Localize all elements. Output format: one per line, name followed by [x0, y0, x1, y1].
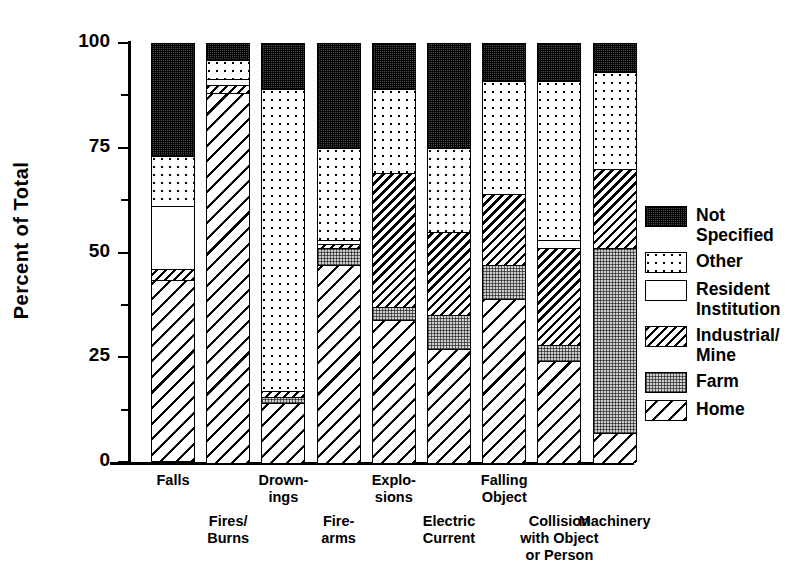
bar-segment-notspec[interactable]	[538, 44, 580, 82]
bar-segment-other[interactable]	[538, 82, 580, 241]
x-tick-label-6: Electric Current	[394, 513, 504, 547]
bar-segment-home[interactable]	[373, 321, 415, 463]
y-tick-label-25: 25	[60, 344, 110, 366]
y-tick-label-75: 75	[60, 135, 110, 157]
bar-segment-industrial[interactable]	[594, 170, 636, 250]
legend-item-notspec[interactable]: Not Specified	[645, 205, 805, 245]
bar-segment-other[interactable]	[152, 157, 194, 207]
x-tick-label-3: Drown- ings	[228, 472, 338, 506]
legend-swatch-home	[645, 400, 687, 421]
y-tick-label-50: 50	[60, 240, 110, 262]
bar-segment-notspec[interactable]	[262, 44, 304, 90]
legend-swatch-industrial	[645, 326, 687, 347]
bar-segment-notspec[interactable]	[373, 44, 415, 90]
y-tick-minor-87.5	[121, 94, 129, 96]
bar-segment-industrial[interactable]	[152, 270, 194, 280]
bar-segment-home[interactable]	[483, 300, 525, 463]
bar-segment-industrial[interactable]	[538, 249, 580, 345]
bar-segment-industrial[interactable]	[483, 195, 525, 266]
bar-segment-home[interactable]	[207, 94, 249, 463]
x-tick-label-7: Falling Object	[449, 472, 559, 506]
legend-swatch-farm	[645, 372, 687, 393]
bar-segment-notspec[interactable]	[428, 44, 470, 149]
bar-5[interactable]	[372, 43, 416, 462]
legend-label-home: Home	[696, 399, 745, 419]
plot-area	[131, 43, 633, 462]
legend-label-notspec: Not Specified	[696, 205, 774, 245]
bar-segment-farm[interactable]	[428, 316, 470, 350]
legend-item-farm[interactable]: Farm	[645, 371, 805, 393]
y-axis-title: Percent of Total	[2, 90, 42, 390]
bar-segment-farm[interactable]	[318, 249, 360, 266]
x-tick-label-9: Machinery	[560, 513, 670, 530]
y-tick-75	[118, 147, 129, 149]
bar-segment-other[interactable]	[428, 149, 470, 233]
bar-segment-other[interactable]	[207, 61, 249, 80]
legend-item-resident[interactable]: Resident Institution	[645, 279, 805, 319]
bar-segment-farm[interactable]	[538, 346, 580, 363]
legend-label-industrial: Industrial/ Mine	[696, 325, 780, 365]
y-tick-25	[118, 356, 129, 358]
bar-segment-home[interactable]	[428, 350, 470, 463]
legend-item-other[interactable]: Other	[645, 251, 805, 273]
bar-7[interactable]	[482, 43, 526, 462]
y-tick-label-0: 0	[60, 449, 110, 471]
legend-item-industrial[interactable]: Industrial/ Mine	[645, 325, 805, 365]
x-tick-label-5: Explo- sions	[339, 472, 449, 506]
y-tick-50	[118, 252, 129, 254]
x-tick-label-1: Falls	[118, 472, 228, 489]
bar-segment-home[interactable]	[152, 281, 194, 461]
bar-segment-industrial[interactable]	[373, 174, 415, 308]
stacked-bar-chart: Percent of Total 0255075100 FallsFires/ …	[0, 0, 807, 579]
bar-segment-other[interactable]	[318, 149, 360, 241]
legend-label-resident: Resident Institution	[696, 279, 781, 319]
bar-segment-other[interactable]	[373, 90, 415, 174]
bar-segment-home[interactable]	[262, 404, 304, 463]
y-tick-minor-37.5	[121, 304, 129, 306]
bar-1[interactable]	[151, 43, 195, 462]
x-tick-label-4: Fire- arms	[284, 513, 394, 547]
bar-segment-farm[interactable]	[594, 249, 636, 433]
legend-swatch-other	[645, 252, 687, 273]
y-tick-minor-62.5	[121, 199, 129, 201]
bar-segment-home[interactable]	[594, 434, 636, 463]
bar-segment-home[interactable]	[318, 266, 360, 463]
y-tick-100	[118, 42, 129, 44]
x-tick-label-2: Fires/ Burns	[173, 513, 283, 547]
bar-segment-industrial[interactable]	[428, 233, 470, 317]
bar-segment-other[interactable]	[483, 82, 525, 195]
bar-8[interactable]	[537, 43, 581, 462]
legend-swatch-resident	[645, 280, 687, 301]
bar-segment-notspec[interactable]	[207, 44, 249, 61]
bar-2[interactable]	[206, 43, 250, 462]
legend-label-other: Other	[696, 251, 743, 271]
bar-6[interactable]	[427, 43, 471, 462]
bar-segment-other[interactable]	[594, 73, 636, 169]
chart-legend: Not SpecifiedOtherResident InstitutionIn…	[645, 205, 805, 427]
bar-segment-resident[interactable]	[538, 241, 580, 249]
legend-swatch-notspec	[645, 206, 687, 227]
y-tick-minor-12.5	[121, 409, 129, 411]
bar-segment-farm[interactable]	[373, 308, 415, 321]
bar-segment-notspec[interactable]	[318, 44, 360, 149]
legend-label-farm: Farm	[696, 371, 739, 391]
bar-segment-industrial[interactable]	[207, 86, 249, 94]
bar-segment-notspec[interactable]	[152, 44, 194, 157]
legend-item-home[interactable]: Home	[645, 399, 805, 421]
bar-segment-notspec[interactable]	[483, 44, 525, 82]
bar-segment-home[interactable]	[538, 362, 580, 463]
bar-9[interactable]	[593, 43, 637, 462]
bar-3[interactable]	[261, 43, 305, 462]
bar-segment-farm[interactable]	[483, 266, 525, 300]
bar-segment-resident[interactable]	[152, 207, 194, 270]
bar-segment-other[interactable]	[262, 90, 304, 392]
y-tick-label-100: 100	[60, 30, 110, 52]
bar-segment-notspec[interactable]	[594, 44, 636, 73]
bar-4[interactable]	[317, 43, 361, 462]
